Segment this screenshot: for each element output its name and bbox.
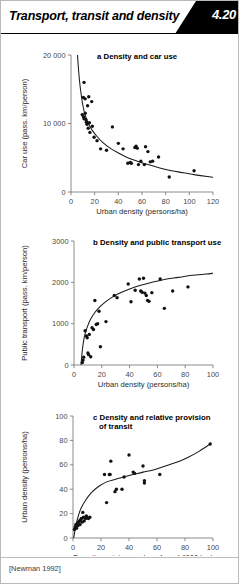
x-tick-label: 0	[69, 197, 73, 206]
data-point	[82, 355, 85, 358]
chart-c-density-and-relative-provision-of-transit: 020406080100020406080100Transit provisio…	[1, 396, 239, 556]
data-point	[90, 100, 93, 103]
data-point	[113, 294, 116, 297]
data-point	[88, 516, 91, 519]
x-tick-label: 0	[72, 370, 76, 379]
y-tick-label: 40	[59, 485, 67, 494]
data-point	[143, 163, 146, 166]
data-point	[142, 277, 145, 280]
data-point	[133, 288, 136, 291]
data-point	[96, 322, 99, 325]
y-tick-label: 3000	[52, 237, 68, 246]
y-tick-label: 0	[64, 361, 68, 370]
data-point	[103, 473, 106, 476]
x-axis-title: Transit provision per km of road ('000 k…	[73, 553, 213, 557]
data-point	[109, 459, 112, 462]
data-point	[88, 131, 91, 134]
data-point	[147, 300, 150, 303]
data-point	[145, 294, 148, 297]
x-tick-label: 20	[98, 370, 106, 379]
y-axis-title: Car use (pass. km/person)	[20, 78, 29, 168]
x-tick-label: 20	[91, 197, 99, 206]
data-point	[86, 127, 89, 130]
x-tick-label: 100	[207, 370, 219, 379]
x-tick-label: 20	[97, 543, 105, 552]
x-tick-label: 80	[181, 370, 189, 379]
data-point	[84, 97, 87, 100]
data-point	[117, 142, 120, 145]
data-point	[151, 159, 154, 162]
x-axis-title: Urban density (persons/ha)	[98, 380, 190, 389]
x-axis-title: Urban density (persons/ha)	[96, 207, 188, 216]
data-point	[192, 169, 195, 172]
x-tick-label: 80	[162, 197, 170, 206]
data-point	[130, 162, 133, 165]
y-tick-label: 0	[63, 534, 67, 543]
data-point	[136, 146, 139, 149]
data-point	[163, 307, 166, 310]
source-bar: [Newman 1992]	[1, 557, 239, 583]
y-tick-label: 0	[61, 188, 65, 197]
data-point	[81, 511, 84, 514]
y-axis-title: Urban density (persons/ha)	[20, 431, 29, 523]
data-point	[81, 358, 84, 361]
x-tick-label: 60	[138, 197, 146, 206]
data-point	[209, 442, 212, 445]
data-point	[121, 147, 124, 150]
x-tick-label: 100	[207, 543, 219, 552]
chart-c-svg: 020406080100020406080100Transit provisio…	[1, 396, 239, 556]
chart-subtitle: of transit	[99, 422, 133, 431]
data-point	[122, 475, 125, 478]
data-point	[82, 81, 85, 84]
badge-number: 4.20	[212, 7, 236, 22]
y-tick-label: 20	[59, 509, 67, 518]
y-tick-label: 60	[59, 460, 67, 469]
data-point	[93, 299, 96, 302]
data-point	[141, 464, 144, 467]
data-point	[84, 112, 87, 115]
y-axis-title: Public transport (pass. km/person)	[20, 245, 29, 361]
data-point	[127, 453, 130, 456]
figure-panel: Transport, transit and density 4.20 010 …	[0, 0, 239, 584]
data-point	[158, 473, 161, 476]
fit-curve	[74, 444, 211, 538]
data-point	[88, 121, 91, 124]
chart-title: c Density and relative provision	[93, 413, 211, 422]
data-point	[97, 310, 100, 313]
y-tick-label: 80	[59, 436, 67, 445]
data-point	[157, 155, 160, 158]
data-point	[87, 95, 90, 98]
chart-title: b Density and public transport use	[93, 238, 222, 247]
x-tick-label: 60	[153, 543, 161, 552]
data-point	[171, 289, 174, 292]
y-tick-label: 10 000	[43, 119, 66, 128]
data-point	[138, 277, 141, 280]
chart-b-svg: 0100020003000020406080100Urban density (…	[1, 216, 239, 396]
data-point	[105, 501, 108, 504]
data-point	[89, 355, 92, 358]
chart-title: a Density and car use	[97, 52, 178, 61]
chart-b-density-and-public-transport-use: 0100020003000020406080100Urban density (…	[1, 216, 239, 396]
data-point	[139, 159, 142, 162]
figure-header: Transport, transit and density 4.20	[1, 1, 239, 34]
data-point	[99, 147, 102, 150]
chart-a-density-and-car-use: 010 00020 000020406080100120Urban densit…	[1, 34, 239, 216]
y-tick-label: 20 000	[43, 51, 66, 60]
data-point	[92, 328, 95, 331]
data-point	[83, 329, 86, 332]
x-tick-label: 0	[71, 543, 75, 552]
data-point	[133, 472, 136, 475]
y-tick-label: 2000	[52, 278, 68, 287]
data-point	[143, 481, 146, 484]
data-point	[99, 345, 102, 348]
fit-curve	[81, 273, 213, 365]
data-point	[146, 150, 149, 153]
data-point	[120, 488, 123, 491]
data-point	[86, 336, 89, 339]
data-point	[158, 277, 161, 280]
data-point	[127, 282, 130, 285]
data-point	[111, 125, 114, 128]
x-tick-label: 40	[125, 543, 133, 552]
data-point	[150, 291, 153, 294]
data-point	[92, 136, 95, 139]
